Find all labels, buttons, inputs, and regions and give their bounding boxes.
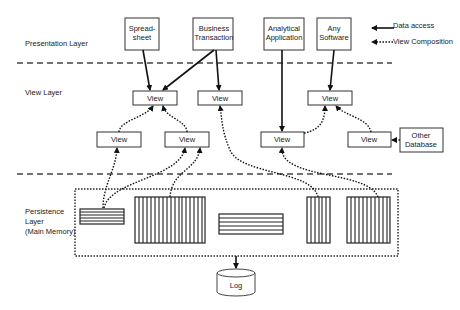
svg-text:View: View <box>111 135 128 144</box>
view-upper-1: View <box>133 91 177 105</box>
log-label: Log <box>230 281 243 290</box>
svg-text:Business: Business <box>199 24 230 33</box>
legend: Data access View Composition <box>372 21 453 46</box>
svg-text:View: View <box>322 94 339 103</box>
table-row-store-2 <box>219 214 283 234</box>
arrow-business-view1 <box>163 50 214 90</box>
view-lower-4: View <box>348 132 391 147</box>
svg-text:Application: Application <box>266 33 303 42</box>
svg-text:Spread-: Spread- <box>129 24 156 33</box>
architecture-diagram: Presentation Layer View Layer Persistenc… <box>0 0 460 310</box>
comp-lower2-upper1 <box>163 106 187 132</box>
svg-text:Other: Other <box>412 131 431 140</box>
persistence-layer-label: Persistence <box>25 207 64 216</box>
node-any-software: Any Software <box>317 18 351 50</box>
view-lower-1: View <box>97 132 141 147</box>
arrow-business-view2 <box>216 50 219 90</box>
persistence-layer-label-3: (Main Memory) <box>25 227 76 236</box>
svg-text:Software: Software <box>319 33 349 42</box>
node-business-transaction: Business Transaction <box>193 18 233 50</box>
svg-text:Transaction: Transaction <box>195 33 234 42</box>
table-column-store-2 <box>307 197 330 243</box>
comp-lower3-upper3 <box>304 106 325 133</box>
view-upper-3: View <box>308 91 352 105</box>
svg-text:View: View <box>361 135 378 144</box>
table-column-store-1 <box>135 197 205 243</box>
view-lower-2: View <box>165 132 209 147</box>
svg-text:View: View <box>147 94 164 103</box>
arrow-spreadsheet-view <box>143 50 150 90</box>
node-other-database: Other Database <box>400 128 443 152</box>
comp-lower4-upper3 <box>336 106 371 132</box>
node-analytical-application: Analytical Application <box>264 18 304 50</box>
node-spreadsheet: Spread- sheet <box>125 18 159 50</box>
table-column-store-3 <box>347 197 390 243</box>
svg-text:View: View <box>179 135 196 144</box>
svg-text:View: View <box>274 135 291 144</box>
comp-lower1-upper1 <box>119 106 153 132</box>
comp-table1-lower1 <box>103 148 117 208</box>
view-lower-3: View <box>261 132 304 147</box>
persistence-layer-label-2: Layer <box>25 217 44 226</box>
log-database-icon: Log <box>217 269 255 296</box>
arrow-software-view <box>330 50 334 90</box>
comp-table4-upper2 <box>220 106 318 197</box>
svg-text:sheet: sheet <box>133 33 152 42</box>
table-row-store-1 <box>80 209 124 224</box>
legend-data-access: Data access <box>393 21 435 30</box>
presentation-layer-label: Presentation Layer <box>25 39 88 48</box>
svg-text:Any: Any <box>328 24 341 33</box>
legend-view-composition: View Composition <box>393 37 453 46</box>
view-upper-2: View <box>198 91 242 105</box>
view-layer-label: View Layer <box>25 88 62 97</box>
svg-text:Analytical: Analytical <box>268 24 300 33</box>
svg-text:Database: Database <box>405 140 437 149</box>
svg-text:View: View <box>212 94 229 103</box>
